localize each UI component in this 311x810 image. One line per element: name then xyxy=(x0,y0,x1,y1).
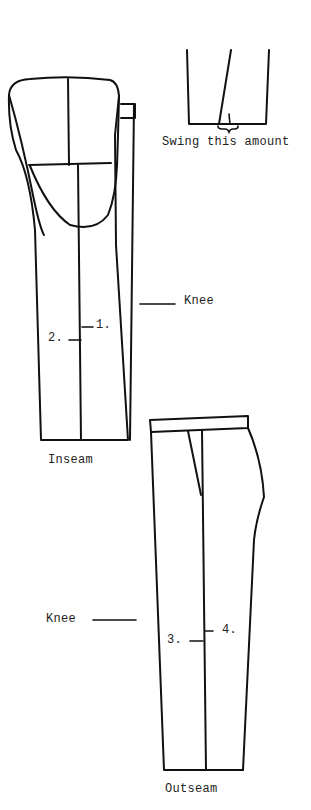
marker-2-label: 2. xyxy=(48,331,63,345)
hem-detail-figure xyxy=(187,50,269,132)
inseam-figure xyxy=(9,77,175,440)
inseam-outer-line xyxy=(130,104,134,440)
outseam-pocket-line xyxy=(188,431,201,495)
swing-brace-icon xyxy=(218,126,238,132)
outseam-figure xyxy=(93,416,264,770)
knee-upper-label: Knee xyxy=(184,294,214,308)
inseam-caption: Inseam xyxy=(48,453,93,467)
marker-4-label: 4. xyxy=(222,623,237,637)
trouser-diagram xyxy=(0,0,311,810)
inseam-pocket-line xyxy=(29,163,111,165)
inseam-crease-line xyxy=(78,165,81,440)
swing-label: Swing this amount xyxy=(162,135,290,149)
hem-crease-line xyxy=(219,50,231,124)
outseam-side-curve xyxy=(243,428,264,770)
inseam-seat-curve xyxy=(30,165,117,227)
marker-1-label: 1. xyxy=(96,318,111,332)
hem-outline xyxy=(187,50,269,124)
hem-original-crease xyxy=(229,114,230,124)
inseam-center-top xyxy=(68,79,69,165)
outseam-caption: Outseam xyxy=(165,782,218,796)
outseam-waistband xyxy=(150,416,248,432)
knee-lower-label: Knee xyxy=(46,612,76,626)
outseam-crease-line xyxy=(202,430,206,770)
marker-3-label: 3. xyxy=(167,633,182,647)
outseam-left-hem xyxy=(151,432,243,770)
